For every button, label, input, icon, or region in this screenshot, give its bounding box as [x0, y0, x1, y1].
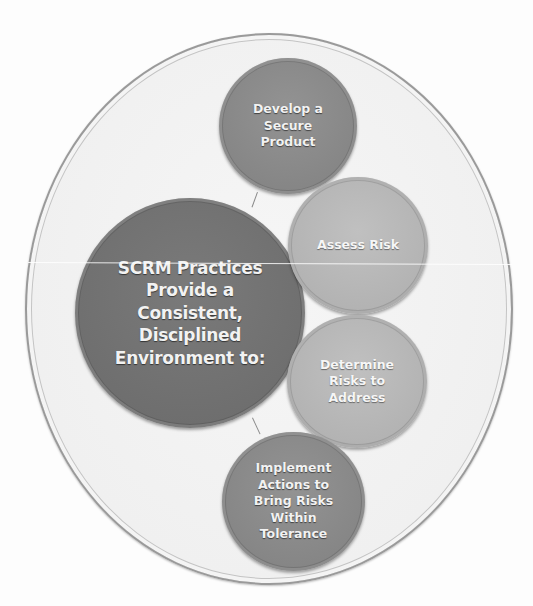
node-implement-actions: Implement Actions to Bring Risks Within … — [222, 432, 365, 571]
node-label: Develop a Secure Product — [253, 101, 323, 151]
node-label: Implement Actions to Bring Risks Within … — [254, 460, 333, 543]
node-label: Assess Risk — [317, 237, 399, 254]
node-assess-risk: Assess Risk — [288, 177, 428, 314]
diagram-canvas: SCRM Practices Provide a Consistent, Dis… — [0, 0, 533, 606]
central-circle-label: SCRM Practices Provide a Consistent, Dis… — [115, 257, 265, 369]
node-label: Determine Risks to Address — [320, 357, 394, 407]
node-determine-risks: Determine Risks to Address — [287, 315, 427, 448]
central-circle: SCRM Practices Provide a Consistent, Dis… — [75, 198, 305, 428]
node-develop-secure-product: Develop a Secure Product — [219, 58, 357, 194]
